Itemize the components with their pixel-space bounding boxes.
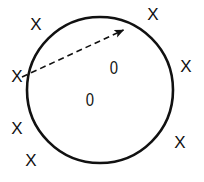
diagram-svg xyxy=(0,0,204,182)
circle-outline xyxy=(27,17,173,163)
figure-canvas: X X X X X X X 0 0 xyxy=(0,0,204,182)
